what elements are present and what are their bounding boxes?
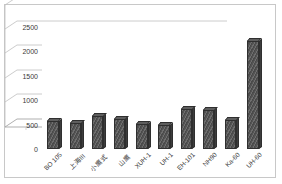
bar-UH-1: [158, 125, 170, 149]
bar-XUH-1: [136, 124, 148, 149]
bar-side-face: [170, 123, 173, 149]
bar-body: [114, 119, 126, 149]
bar-side-face: [59, 119, 62, 149]
bar-body: [70, 123, 82, 149]
bar-side-face: [81, 121, 84, 149]
bar-body: [92, 116, 104, 149]
bar-top-face: [225, 117, 239, 120]
bar-body: [247, 41, 259, 149]
y-axis-tick-1500: 1500: [22, 72, 38, 79]
bar-body: [225, 120, 237, 149]
bar-side-face: [214, 108, 217, 149]
bar-小鹰式: [92, 116, 104, 149]
y-axis-tick-500: 500: [26, 121, 38, 128]
bar-body: [47, 121, 59, 149]
bar-body: [158, 125, 170, 149]
bar-side-face: [103, 114, 106, 149]
y-axis-tick-2000: 2000: [22, 48, 38, 55]
bar-BO 105: [47, 121, 59, 149]
bar-EH-101: [181, 109, 193, 149]
bar-Ka-60: [225, 120, 237, 149]
bar-body: [136, 124, 148, 149]
chart-frame: 05001000150020002500 BO 105上海III小鹰式山鹰XUH…: [4, 4, 276, 178]
y-axis-tick-1000: 1000: [22, 97, 38, 104]
bar-body: [203, 110, 215, 149]
bar-series: [42, 27, 264, 149]
y-axis-tick-2500: 2500: [22, 24, 38, 31]
bar-side-face: [125, 117, 128, 149]
bar-side-face: [192, 107, 195, 149]
bar-side-face: [236, 118, 239, 149]
y-axis-tick-0: 0: [34, 146, 38, 153]
bar-上海III: [70, 123, 82, 149]
bar-UH-60: [247, 41, 259, 149]
bar-NH90: [203, 110, 215, 149]
bar-side-face: [148, 122, 151, 149]
bar-top-face: [114, 116, 128, 119]
bar-top-face: [70, 120, 84, 123]
bar-body: [181, 109, 193, 149]
bar-山鹰: [114, 119, 126, 149]
bar-side-face: [259, 39, 262, 149]
plot-area: 05001000150020002500: [42, 27, 264, 149]
